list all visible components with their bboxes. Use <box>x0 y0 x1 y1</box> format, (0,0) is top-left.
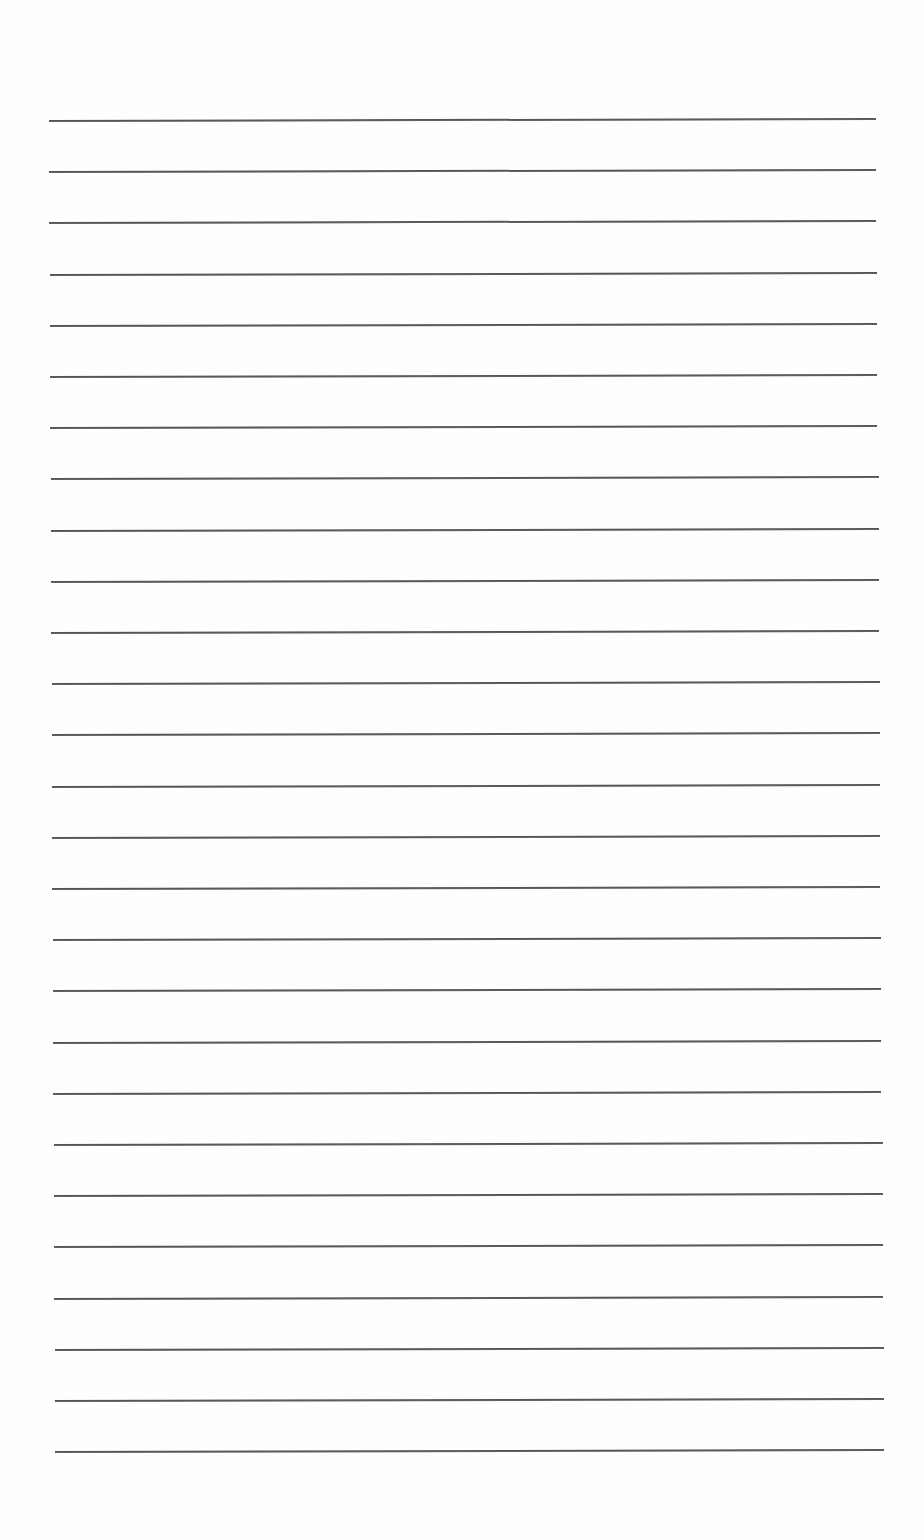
ruled-line <box>52 886 880 890</box>
ruled-line <box>54 1142 883 1146</box>
ruled-line <box>55 1449 884 1453</box>
ruled-line <box>49 220 876 224</box>
ruled-line <box>52 732 880 736</box>
ruled-line <box>50 272 877 276</box>
ruled-line <box>55 1398 884 1402</box>
ruled-line <box>53 1091 881 1095</box>
ruled-line <box>52 835 880 839</box>
ruled-line <box>51 476 879 480</box>
ruled-line <box>49 118 876 122</box>
ruled-line <box>49 169 876 173</box>
ruled-line <box>54 1244 883 1248</box>
ruled-line <box>50 323 877 327</box>
ruled-line <box>50 374 877 378</box>
ruled-line <box>54 1296 883 1300</box>
ruled-line <box>53 988 881 992</box>
ruled-line <box>50 425 877 429</box>
lined-paper-page <box>0 0 924 1540</box>
ruled-line <box>51 630 879 634</box>
ruled-line <box>55 1347 884 1351</box>
ruled-line <box>51 528 879 532</box>
ruled-line <box>53 1040 881 1044</box>
ruled-line <box>54 1193 883 1197</box>
ruled-line <box>52 784 880 788</box>
ruled-line <box>52 681 880 685</box>
ruled-line <box>51 579 879 583</box>
ruled-line <box>53 937 881 941</box>
